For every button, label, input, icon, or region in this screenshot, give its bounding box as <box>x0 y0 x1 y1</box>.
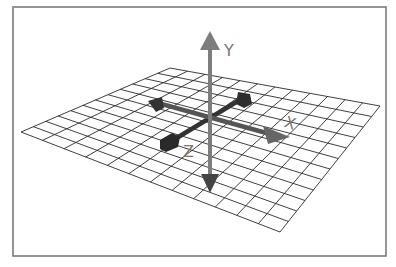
y-axis-label: Y <box>223 41 234 60</box>
z-axis-label: Z <box>183 142 194 161</box>
axes-diagram: Y X Z <box>0 0 396 267</box>
